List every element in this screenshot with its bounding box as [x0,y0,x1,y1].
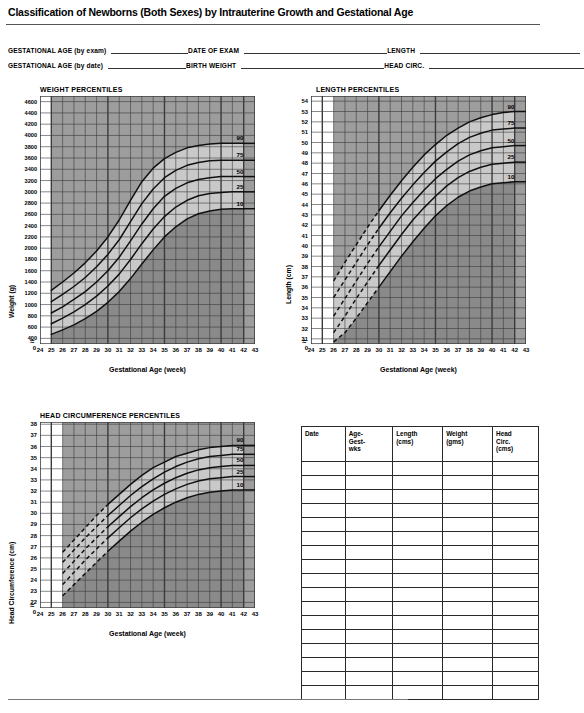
table-cell[interactable] [443,588,493,602]
table-cell[interactable] [393,602,443,616]
field-input-line[interactable] [420,45,580,54]
table-cell[interactable] [493,588,539,602]
table-cell[interactable] [493,658,539,672]
table-cell[interactable] [443,602,493,616]
table-cell[interactable] [345,686,393,700]
table-row[interactable] [302,532,539,546]
table-cell[interactable] [302,532,346,546]
table-cell[interactable] [393,616,443,630]
table-cell[interactable] [302,630,346,644]
table-cell[interactable] [493,462,539,476]
table-cell[interactable] [493,574,539,588]
table-cell[interactable] [393,574,443,588]
table-cell[interactable] [443,574,493,588]
table-cell[interactable] [302,560,346,574]
table-cell[interactable] [345,602,393,616]
table-cell[interactable] [443,504,493,518]
table-row[interactable] [302,672,539,686]
table-cell[interactable] [393,546,443,560]
table-cell[interactable] [393,490,443,504]
table-row[interactable] [302,644,539,658]
field-birth-weight[interactable]: BIRTH WEIGHT [186,60,384,70]
table-cell[interactable] [493,532,539,546]
table-cell[interactable] [345,476,393,490]
table-row[interactable] [302,518,539,532]
table-cell[interactable] [443,644,493,658]
table-cell[interactable] [345,588,393,602]
table-cell[interactable] [493,560,539,574]
table-cell[interactable] [393,532,443,546]
field-input-line[interactable] [108,60,186,69]
table-cell[interactable] [443,532,493,546]
table-row[interactable] [302,630,539,644]
table-cell[interactable] [493,616,539,630]
table-cell[interactable] [345,518,393,532]
table-cell[interactable] [443,616,493,630]
table-cell[interactable] [443,658,493,672]
table-cell[interactable] [345,490,393,504]
table-cell[interactable] [443,490,493,504]
table-cell[interactable] [493,476,539,490]
table-row[interactable] [302,658,539,672]
table-row[interactable] [302,462,539,476]
table-cell[interactable] [302,602,346,616]
table-cell[interactable] [302,574,346,588]
table-row[interactable] [302,602,539,616]
table-cell[interactable] [493,644,539,658]
table-cell[interactable] [443,476,493,490]
table-row[interactable] [302,560,539,574]
table-cell[interactable] [393,588,443,602]
table-cell[interactable] [345,560,393,574]
table-cell[interactable] [443,672,493,686]
table-cell[interactable] [345,462,393,476]
table-cell[interactable] [345,504,393,518]
table-cell[interactable] [393,518,443,532]
table-cell[interactable] [493,518,539,532]
table-row[interactable] [302,588,539,602]
table-cell[interactable] [345,532,393,546]
table-cell[interactable] [345,630,393,644]
field-length[interactable]: LENGTH [387,45,580,55]
table-row[interactable] [302,476,539,490]
table-cell[interactable] [393,462,443,476]
table-cell[interactable] [393,476,443,490]
table-cell[interactable] [345,672,393,686]
measurements-table[interactable]: DateAge-Gest-wksLength(cms)Weight(gms)He… [301,426,539,700]
field-gestational-age-by-exam[interactable]: GESTATIONAL AGE (by exam) [8,45,188,55]
table-cell[interactable] [345,574,393,588]
field-input-line[interactable] [429,60,584,69]
field-head-circ[interactable]: HEAD CIRC. [384,60,584,70]
table-cell[interactable] [302,504,346,518]
table-cell[interactable] [302,518,346,532]
table-cell[interactable] [393,644,443,658]
table-cell[interactable] [345,644,393,658]
table-row[interactable] [302,546,539,560]
table-cell[interactable] [302,686,346,700]
table-cell[interactable] [493,490,539,504]
table-cell[interactable] [345,658,393,672]
table-cell[interactable] [393,504,443,518]
table-cell[interactable] [493,504,539,518]
table-cell[interactable] [302,616,346,630]
table-cell[interactable] [443,462,493,476]
table-row[interactable] [302,686,539,700]
table-cell[interactable] [302,490,346,504]
field-input-line[interactable] [111,45,188,54]
table-row[interactable] [302,616,539,630]
table-cell[interactable] [393,630,443,644]
table-cell[interactable] [302,644,346,658]
table-cell[interactable] [443,546,493,560]
table-cell[interactable] [393,560,443,574]
field-input-line[interactable] [241,60,384,69]
table-cell[interactable] [493,672,539,686]
field-input-line[interactable] [244,45,387,54]
field-gestational-age-by-date[interactable]: GESTATIONAL AGE (by date) [8,60,186,70]
table-cell[interactable] [443,560,493,574]
table-cell[interactable] [302,476,346,490]
field-date-of-exam[interactable]: DATE OF EXAM [188,45,387,55]
table-cell[interactable] [443,686,493,700]
table-cell[interactable] [443,630,493,644]
table-cell[interactable] [345,616,393,630]
table-cell[interactable] [393,658,443,672]
table-cell[interactable] [345,546,393,560]
